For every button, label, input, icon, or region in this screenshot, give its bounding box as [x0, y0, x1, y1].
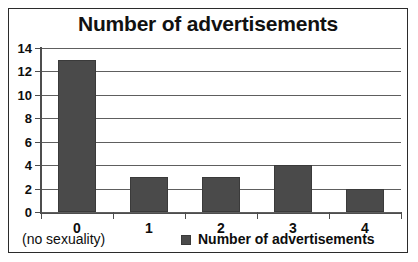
- bar: [58, 60, 95, 212]
- bar-slot: [113, 48, 185, 212]
- x-axis-ticks: [41, 212, 401, 219]
- y-axis-tick-label: 12: [18, 64, 32, 79]
- chart-title: Number of advertisements: [9, 12, 407, 36]
- y-axis-tick-label: 4: [25, 158, 32, 173]
- y-axis-tick-label: 2: [25, 181, 32, 196]
- plot-area: 14121086420 01234: [41, 48, 401, 212]
- legend-item-label: Number of advertisements: [198, 231, 375, 247]
- y-axis-tick-label: 8: [25, 111, 32, 126]
- y-axis-tick-label: 0: [25, 205, 32, 220]
- legend-swatch-icon: [181, 235, 191, 245]
- bars-layer: [41, 48, 401, 212]
- bar-slot: [257, 48, 329, 212]
- x-axis-tick-mark: [257, 212, 258, 219]
- x-axis-tick-mark: [401, 212, 402, 219]
- bar: [130, 177, 167, 212]
- bar: [202, 177, 239, 212]
- x-axis-tick-mark: [113, 212, 114, 219]
- x-axis-tick-mark: [41, 212, 42, 219]
- chart-frame: Number of advertisements 14121086420 012…: [8, 8, 408, 253]
- x-axis-tick-mark: [329, 212, 330, 219]
- bar-slot: [41, 48, 113, 212]
- chart-legend: Number of advertisements: [181, 231, 375, 247]
- axis-annotation-no-sexuality: (no sexuality): [22, 231, 105, 247]
- bar-slot: [329, 48, 401, 212]
- y-axis-tick-label: 14: [18, 41, 32, 56]
- bar: [346, 189, 383, 212]
- chart-footer: (no sexuality) Number of advertisements: [9, 231, 407, 253]
- bar-slot: [185, 48, 257, 212]
- y-axis-tick-label: 6: [25, 134, 32, 149]
- bar: [274, 165, 311, 212]
- x-axis-tick-mark: [185, 212, 186, 219]
- y-axis-tick-label: 10: [18, 87, 32, 102]
